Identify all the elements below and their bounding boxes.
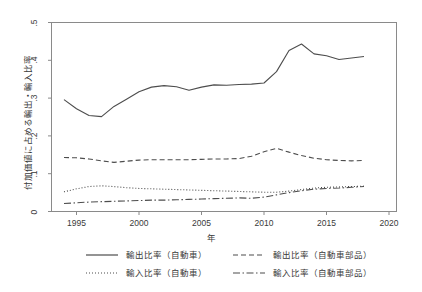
legend-item-label: 輸出比率（自動車）	[126, 250, 207, 260]
plot-frame	[52, 23, 397, 212]
x-tick-marks	[77, 212, 390, 216]
series-line-2	[64, 186, 364, 192]
series-line-3	[64, 148, 364, 162]
legend-column-left: 輸出比率（自動車）輸入比率（自動車）	[85, 246, 207, 282]
y-tick-label: .2	[29, 124, 39, 148]
legend-column-right: 輸出比率（自動車部品）輸入比率（自動車部品）	[232, 246, 372, 282]
legend-item[interactable]: 輸出比率（自動車）	[85, 246, 207, 264]
y-tick-label: .4	[29, 48, 39, 72]
legend-item[interactable]: 輸入比率（自動車）	[85, 264, 207, 282]
figure: 付加価値に占める輸出・輸入比率 年 0.1.2.3.4.5 1995200020…	[0, 0, 422, 292]
y-tick-label: .1	[29, 162, 39, 186]
legend-line-sample-solid	[85, 250, 119, 260]
x-tick-label: 2010	[244, 218, 284, 228]
x-tick-label: 2005	[182, 218, 222, 228]
x-tick-label: 2000	[119, 218, 159, 228]
legend-item[interactable]: 輸入比率（自動車部品）	[232, 264, 372, 282]
legend-line-sample-dashed	[232, 250, 266, 260]
series-line-1	[64, 44, 364, 117]
legend-item[interactable]: 輸出比率（自動車部品）	[232, 246, 372, 264]
y-tick-label: .3	[29, 86, 39, 110]
series-line-4	[64, 187, 364, 204]
x-tick-label: 2020	[369, 218, 409, 228]
legend-item-label: 輸入比率（自動車部品）	[273, 268, 372, 278]
x-tick-label: 2015	[307, 218, 347, 228]
x-tick-label: 1995	[57, 218, 97, 228]
y-tick-label: 0	[29, 200, 39, 224]
y-tick-marks	[48, 23, 52, 212]
y-tick-label: .5	[29, 11, 39, 35]
legend-item-label: 輸出比率（自動車部品）	[273, 250, 372, 260]
x-axis-label: 年	[0, 231, 422, 243]
legend: 輸出比率（自動車）輸入比率（自動車） 輸出比率（自動車部品）輸入比率（自動車部品…	[0, 246, 422, 290]
legend-item-label: 輸入比率（自動車）	[126, 268, 207, 278]
data-lines	[64, 44, 364, 204]
legend-line-sample-dotted	[85, 268, 119, 278]
legend-line-sample-dashdot	[232, 268, 266, 278]
